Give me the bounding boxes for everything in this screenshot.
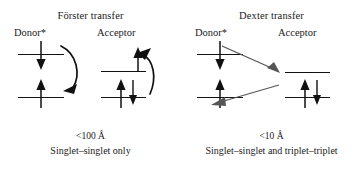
dexter-exchange-arrow-to-donor [203, 84, 283, 112]
dexter-acceptor-label: Acceptor [278, 27, 316, 38]
dexter-panel-title: Dexter transfer [181, 10, 362, 21]
dexter-distance-caption: <10 Å [181, 131, 362, 141]
forster-donor-label: Donor* [14, 27, 46, 38]
forster-panel: Förster transfer Donor* Acceptor [0, 0, 181, 170]
forster-rule-caption: Singlet–singlet only [0, 145, 181, 156]
forster-acceptor-label: Acceptor [97, 27, 135, 38]
dexter-rule-caption: Singlet–singlet and triplet–triplet [181, 145, 362, 156]
dexter-panel: Dexter transfer Donor* Acceptor [181, 0, 362, 170]
forster-donor-excited-down-spin-arrow [33, 41, 49, 71]
forster-acceptor-excitation-curved-arrow [133, 44, 161, 98]
dexter-acceptor-ground-down-spin-arrow [310, 80, 324, 106]
dexter-donor-label: Donor* [195, 27, 227, 38]
forster-donor-relaxation-curved-arrow [55, 44, 85, 98]
energy-transfer-diagram: Förster transfer Donor* Acceptor [0, 0, 362, 170]
dexter-exchange-arrow-to-acceptor [220, 44, 290, 78]
forster-donor-ground-up-spin-arrow [33, 78, 49, 108]
forster-panel-title: Förster transfer [0, 10, 181, 21]
dexter-acceptor-excited-level [285, 72, 330, 73]
forster-distance-caption: <100 Å [0, 131, 181, 141]
